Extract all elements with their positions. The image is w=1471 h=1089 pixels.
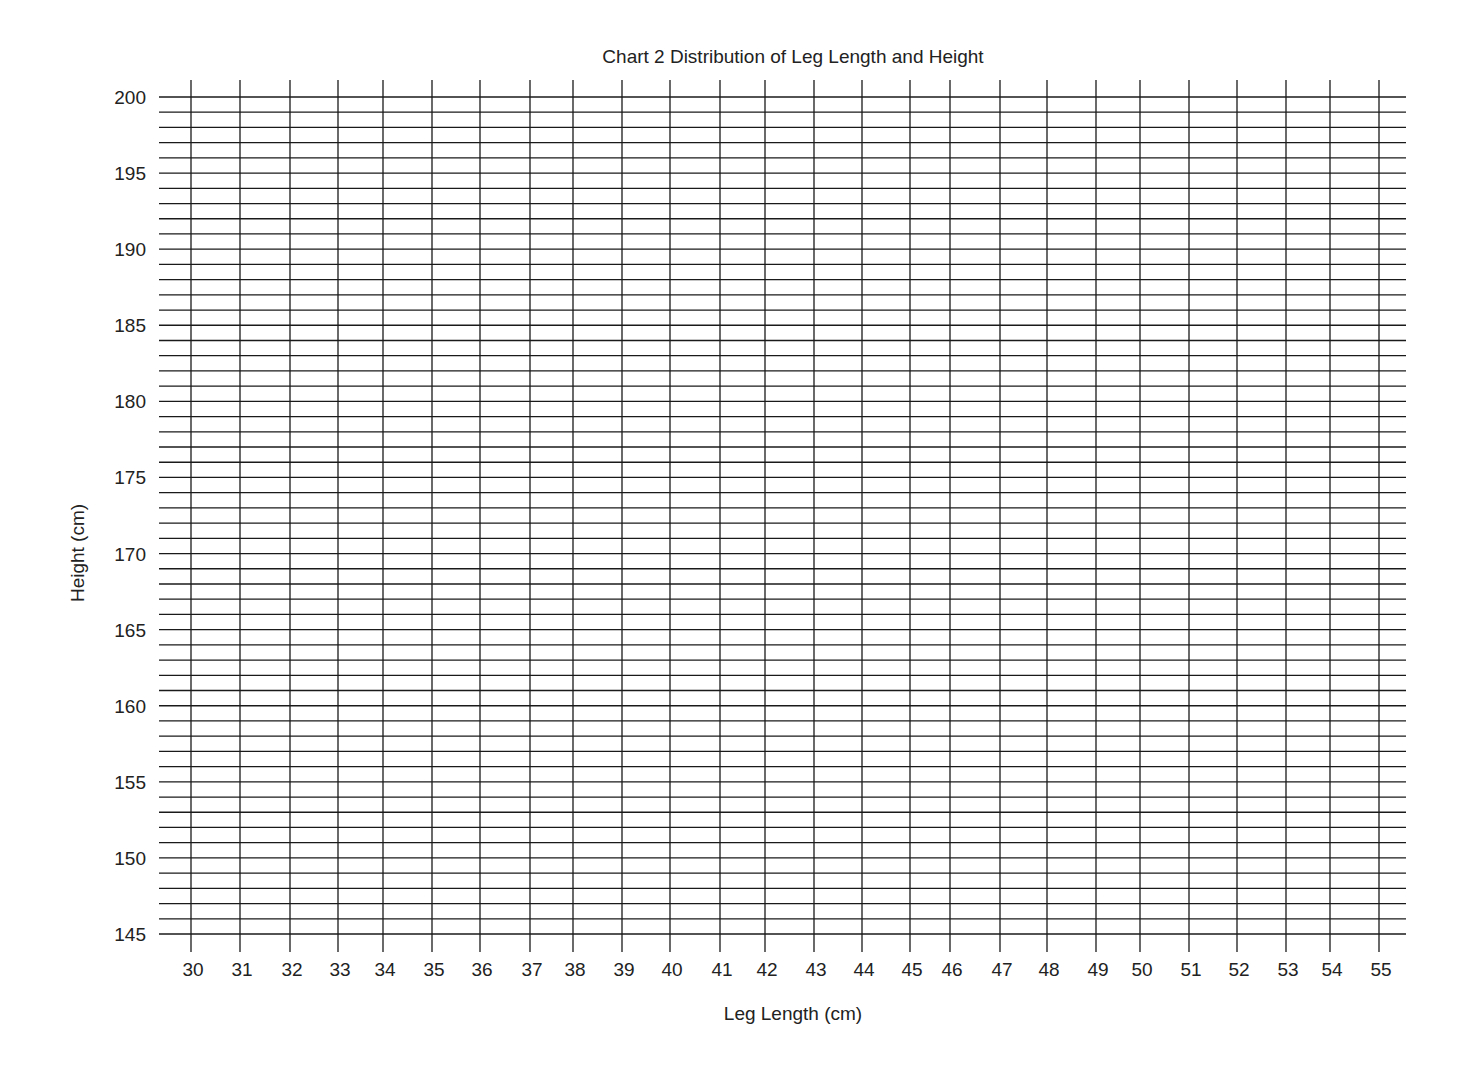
x-axis-tick-labels: 3031323334353637383940414243444546474849… bbox=[182, 959, 1391, 980]
x-tick-label: 40 bbox=[661, 959, 682, 980]
x-tick-label: 37 bbox=[521, 959, 542, 980]
x-tick-label: 52 bbox=[1228, 959, 1249, 980]
y-tick-label: 160 bbox=[114, 696, 146, 717]
x-tick-label: 55 bbox=[1370, 959, 1391, 980]
y-tick-label: 165 bbox=[114, 620, 146, 641]
y-tick-label: 150 bbox=[114, 848, 146, 869]
x-tick-label: 34 bbox=[374, 959, 396, 980]
x-tick-label: 43 bbox=[805, 959, 826, 980]
x-tick-label: 30 bbox=[182, 959, 203, 980]
horizontal-grid-lines bbox=[159, 97, 1406, 934]
x-tick-label: 47 bbox=[991, 959, 1012, 980]
x-tick-label: 48 bbox=[1038, 959, 1059, 980]
y-tick-label: 175 bbox=[114, 467, 146, 488]
y-tick-label: 155 bbox=[114, 772, 146, 793]
x-tick-label: 44 bbox=[853, 959, 875, 980]
x-tick-label: 35 bbox=[423, 959, 444, 980]
x-tick-label: 39 bbox=[613, 959, 634, 980]
y-tick-label: 195 bbox=[114, 163, 146, 184]
y-axis-tick-labels: 145150155160165170175180185190195200 bbox=[114, 87, 146, 945]
y-tick-label: 190 bbox=[114, 239, 146, 260]
x-tick-label: 53 bbox=[1277, 959, 1298, 980]
x-tick-label: 50 bbox=[1131, 959, 1152, 980]
x-tick-label: 49 bbox=[1087, 959, 1108, 980]
x-tick-label: 33 bbox=[329, 959, 350, 980]
x-tick-label: 31 bbox=[231, 959, 252, 980]
x-tick-label: 42 bbox=[756, 959, 777, 980]
y-tick-label: 185 bbox=[114, 315, 146, 336]
chart-grid: 145150155160165170175180185190195200 303… bbox=[0, 0, 1471, 1089]
vertical-grid-lines bbox=[191, 80, 1379, 952]
x-tick-label: 32 bbox=[281, 959, 302, 980]
x-tick-label: 45 bbox=[901, 959, 922, 980]
y-tick-label: 200 bbox=[114, 87, 146, 108]
x-tick-label: 38 bbox=[564, 959, 585, 980]
y-tick-label: 145 bbox=[114, 924, 146, 945]
x-tick-label: 54 bbox=[1321, 959, 1343, 980]
x-tick-label: 41 bbox=[711, 959, 732, 980]
x-tick-label: 36 bbox=[471, 959, 492, 980]
x-tick-label: 46 bbox=[941, 959, 962, 980]
y-tick-label: 180 bbox=[114, 391, 146, 412]
x-tick-label: 51 bbox=[1180, 959, 1201, 980]
y-tick-label: 170 bbox=[114, 544, 146, 565]
